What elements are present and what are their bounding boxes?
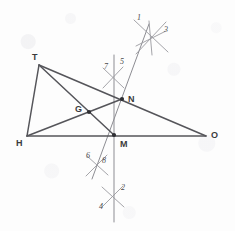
arc-step-label-4: 4	[99, 203, 103, 211]
arc-step-label-6: 6	[86, 152, 90, 160]
point-M	[112, 133, 116, 137]
diagram-canvas: THONMG 13756824	[0, 0, 235, 231]
arc-step-label-3: 3	[164, 26, 168, 34]
arc-step-label-2: 2	[121, 184, 125, 192]
vertex-label-G: G	[75, 105, 82, 114]
perpendicular-bisector-oblique	[92, 24, 149, 179]
arc-step-label-7: 7	[104, 63, 108, 71]
vertex-label-O: O	[211, 131, 218, 140]
vertex-label-T: T	[32, 53, 38, 62]
points-group	[87, 97, 124, 137]
vertex-label-N: N	[128, 95, 135, 104]
vertex-label-H: H	[16, 139, 23, 148]
point-N	[120, 97, 124, 101]
arc-pair-bottom-stroke-1	[102, 186, 123, 207]
arc-marks-group	[86, 20, 168, 207]
side-TH	[27, 65, 39, 136]
vertex-label-M: M	[120, 140, 128, 149]
arc-step-label-1: 1	[137, 14, 141, 22]
geometry-figure	[0, 0, 235, 231]
cevian-T-to-M	[39, 65, 114, 135]
arc-step-label-8: 8	[102, 157, 106, 165]
point-G	[87, 110, 91, 114]
arc-step-label-5: 5	[120, 58, 124, 66]
segments-group	[27, 65, 206, 136]
